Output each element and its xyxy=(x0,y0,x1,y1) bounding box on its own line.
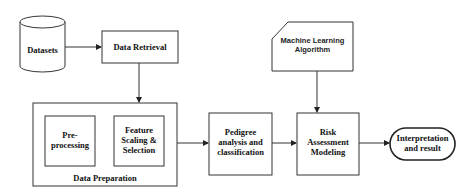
risk-label-2: Assessment xyxy=(307,137,349,147)
ml-algorithm-node: Machine Learning Algorithm xyxy=(272,22,353,71)
result-label-2: and result xyxy=(404,143,441,153)
risk-assessment-node: Risk Assessment Modeling xyxy=(297,113,359,175)
risk-label-1: Risk xyxy=(320,127,337,137)
pedigree-label-1: Pedigree xyxy=(225,127,257,137)
preprocessing-label-2: processing xyxy=(51,140,90,150)
data-retrieval-label: Data Retrieval xyxy=(113,42,167,52)
risk-label-3: Modeling xyxy=(311,147,346,157)
result-label-1: Interpretation xyxy=(397,133,449,143)
pedigree-node: Pedigree analysis and classification xyxy=(209,113,272,175)
preprocessing-label-1: Pre- xyxy=(62,130,78,140)
flowchart-diagram: Datasets Data Retrieval Data Preparation… xyxy=(0,0,473,195)
pedigree-label-2: analysis and xyxy=(218,137,263,147)
feature-scaling-node: Feature Scaling & Selection xyxy=(114,116,164,166)
feature-label-1: Feature xyxy=(125,125,153,135)
feature-label-3: Selection xyxy=(123,145,156,155)
preprocessing-node: Pre- processing xyxy=(45,116,95,166)
datasets-node: Datasets xyxy=(20,16,65,72)
pedigree-label-3: classification xyxy=(217,147,264,157)
data-preparation-node: Data Preparation Pre- processing Feature… xyxy=(33,103,177,186)
result-node: Interpretation and result xyxy=(390,128,455,160)
datasets-label: Datasets xyxy=(27,45,58,55)
ml-label-2: Algorithm xyxy=(295,45,331,54)
ml-label-1: Machine Learning xyxy=(281,36,345,45)
data-preparation-label: Data Preparation xyxy=(73,173,137,183)
feature-label-2: Scaling & xyxy=(121,135,157,145)
data-retrieval-node: Data Retrieval xyxy=(102,31,178,63)
